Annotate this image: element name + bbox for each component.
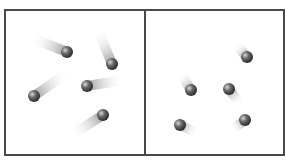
molecule-particle <box>28 90 40 102</box>
molecule-particle <box>185 84 197 96</box>
molecule-particle <box>241 51 253 63</box>
molecule-particle <box>239 114 251 126</box>
molecule-particle <box>223 83 235 95</box>
molecule-particle <box>97 109 109 121</box>
molecule-particle <box>174 119 186 131</box>
molecule-particle <box>106 58 118 70</box>
molecule-particle <box>81 80 93 92</box>
molecule-particle <box>61 46 73 58</box>
particles-canvas <box>0 0 286 162</box>
motion-trail <box>34 73 67 96</box>
